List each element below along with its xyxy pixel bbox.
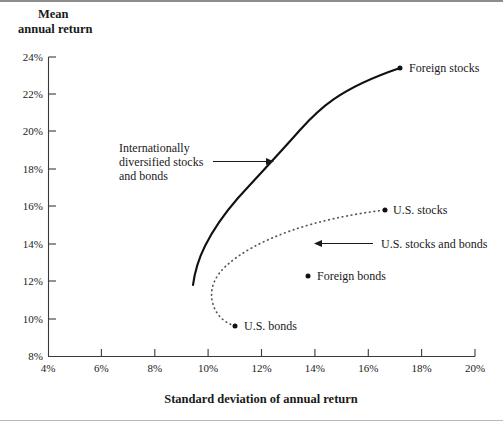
x-tick-label-14: 14% bbox=[305, 362, 325, 374]
y-tick-label-22: 22% bbox=[23, 88, 43, 100]
chart-figure: Mean annual return 24% 22% 20% 18% 16% 1… bbox=[0, 0, 503, 426]
y-tick-label-20: 20% bbox=[23, 125, 43, 137]
point-us-bonds bbox=[233, 324, 238, 329]
annotation-international-line2: diversified stocks bbox=[119, 155, 204, 169]
x-axis-title: Standard deviation of annual return bbox=[164, 392, 358, 406]
x-tick-label-6: 6% bbox=[94, 362, 109, 374]
y-tick-label-10: 10% bbox=[23, 313, 43, 325]
point-foreign-bonds bbox=[306, 274, 311, 279]
label-us-stocks: U.S. stocks bbox=[393, 203, 448, 217]
annotation-us-stocks-bonds: U.S. stocks and bonds bbox=[381, 237, 488, 251]
y-tick-label-18: 18% bbox=[23, 163, 43, 175]
y-axis-title-line1: Mean bbox=[38, 7, 69, 21]
x-tick-label-20: 20% bbox=[465, 362, 485, 374]
label-foreign-stocks: Foreign stocks bbox=[409, 61, 480, 75]
y-tick-label-14: 14% bbox=[23, 238, 43, 250]
annotation-arrow-international bbox=[213, 158, 274, 165]
curve-international-diversified bbox=[193, 68, 400, 285]
x-tick-label-10: 10% bbox=[198, 362, 218, 374]
x-tick-label-16: 16% bbox=[358, 362, 378, 374]
annotation-international-line1: Internationally bbox=[119, 141, 190, 155]
y-axis-ticks bbox=[49, 57, 57, 319]
x-axis-ticks bbox=[101, 349, 475, 357]
x-tick-label-4: 4% bbox=[41, 362, 56, 374]
y-tick-label-8: 8% bbox=[28, 350, 43, 362]
y-axis-title-line2: annual return bbox=[18, 22, 92, 36]
curve-us-stocks-bonds bbox=[212, 210, 385, 326]
y-tick-label-16: 16% bbox=[23, 200, 43, 212]
label-foreign-bonds: Foreign bonds bbox=[317, 269, 386, 283]
annotation-arrow-us-stocks-bonds bbox=[314, 240, 373, 247]
y-tick-label-24: 24% bbox=[23, 51, 43, 63]
point-us-stocks bbox=[383, 208, 388, 213]
x-tick-label-12: 12% bbox=[251, 362, 271, 374]
y-tick-label-12: 12% bbox=[23, 275, 43, 287]
label-us-bonds: U.S. bonds bbox=[244, 319, 297, 333]
x-tick-label-8: 8% bbox=[147, 362, 162, 374]
x-tick-label-18: 18% bbox=[412, 362, 432, 374]
chart-svg: Mean annual return 24% 22% 20% 18% 16% 1… bbox=[0, 0, 503, 426]
annotation-international-line3: and bonds bbox=[119, 169, 168, 183]
point-foreign-stocks bbox=[398, 66, 403, 71]
